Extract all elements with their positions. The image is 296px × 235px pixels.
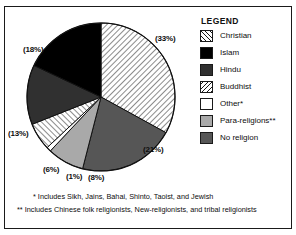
legend-swatch-icon bbox=[200, 81, 213, 93]
legend-item[interactable]: Other* bbox=[191, 97, 291, 114]
pie-percent-label: (33%) bbox=[155, 34, 175, 43]
pie-percent-label: (8%) bbox=[88, 173, 104, 182]
pie-chart-figure: (33%)(18%)(13%)(6%)(1%)(8%)(21%) LEGEND … bbox=[0, 0, 296, 235]
legend-swatch-icon bbox=[200, 115, 213, 127]
legend-list: ChristianIslamHinduBuddhistOther*Para-re… bbox=[191, 29, 291, 148]
pie-percent-label: (1%) bbox=[66, 172, 82, 181]
legend-item[interactable]: Islam bbox=[191, 46, 291, 63]
pie-percent-label: (13%) bbox=[8, 129, 28, 138]
figure-frame: (33%)(18%)(13%)(6%)(1%)(8%)(21%) LEGEND … bbox=[4, 6, 292, 229]
legend-item[interactable]: No religion bbox=[191, 131, 291, 148]
legend-item-label: Buddhist bbox=[220, 81, 251, 93]
legend-swatch-icon bbox=[200, 64, 213, 76]
legend-item-label: Islam bbox=[220, 47, 239, 59]
footnote-single-asterisk: * Includes Sikh, Jains, Bahai, Shinto, T… bbox=[11, 190, 289, 203]
footnote-double-asterisk: ** Includes Chinese folk religionists, N… bbox=[11, 203, 289, 216]
legend-item-label: Other* bbox=[220, 98, 243, 110]
legend-swatch-icon bbox=[200, 98, 213, 110]
legend-item-label: Christian bbox=[220, 30, 252, 42]
legend-item[interactable]: Buddhist bbox=[191, 80, 291, 97]
pie-percent-label: (21%) bbox=[143, 145, 163, 154]
cropped-title-sliver bbox=[90, 0, 240, 4]
legend-item-label: Hindu bbox=[220, 64, 241, 76]
footnotes: * Includes Sikh, Jains, Bahai, Shinto, T… bbox=[11, 190, 289, 216]
legend-item-label: Para-religions** bbox=[220, 115, 276, 127]
legend-item[interactable]: Hindu bbox=[191, 63, 291, 80]
legend-swatch-icon bbox=[200, 47, 213, 59]
legend-swatch-icon bbox=[200, 132, 213, 144]
legend-item-label: No religion bbox=[220, 132, 258, 144]
legend-swatch-icon bbox=[200, 30, 213, 42]
legend: LEGEND ChristianIslamHinduBuddhistOther*… bbox=[191, 9, 291, 159]
pie-chart: (33%)(18%)(13%)(6%)(1%)(8%)(21%) bbox=[5, 7, 191, 177]
legend-item[interactable]: Para-religions** bbox=[191, 114, 291, 131]
legend-title: LEGEND bbox=[201, 16, 239, 26]
pie-percent-label: (18%) bbox=[23, 45, 43, 54]
pie-percent-label: (6%) bbox=[43, 165, 59, 174]
legend-item[interactable]: Christian bbox=[191, 29, 291, 46]
